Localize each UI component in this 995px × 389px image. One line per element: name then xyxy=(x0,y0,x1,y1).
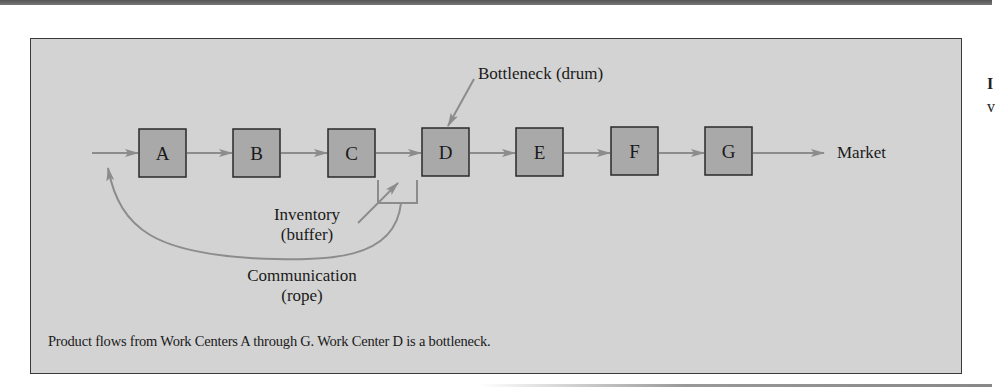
market-label: Market xyxy=(837,143,886,163)
svg-text:D: D xyxy=(439,142,453,163)
inventory-label-line2: (buffer) xyxy=(262,225,352,245)
svg-text:B: B xyxy=(250,143,263,164)
svg-text:G: G xyxy=(722,141,736,162)
work-center-G: G xyxy=(705,127,752,175)
work-center-D-bottleneck: D xyxy=(422,128,469,176)
work-center-B: B xyxy=(233,129,280,177)
rope-feedback-arrow xyxy=(108,168,401,259)
svg-text:A: A xyxy=(156,143,170,164)
inventory-label-line1: Inventory xyxy=(262,205,352,225)
bottom-rule xyxy=(480,384,992,387)
bottleneck-pointer-arrow xyxy=(448,79,474,126)
svg-text:E: E xyxy=(534,142,546,163)
svg-text:C: C xyxy=(345,143,358,164)
communication-label-line2: (rope) xyxy=(232,286,372,306)
cropped-text-fragment-1: I xyxy=(987,75,993,93)
communication-label: Communication (rope) xyxy=(232,266,372,306)
work-center-C: C xyxy=(328,129,375,177)
communication-label-line1: Communication xyxy=(232,266,372,286)
inventory-label: Inventory (buffer) xyxy=(262,205,352,245)
bottleneck-label: Bottleneck (drum) xyxy=(478,64,603,84)
work-center-F: F xyxy=(611,127,658,175)
work-center-A: A xyxy=(139,129,186,177)
svg-text:F: F xyxy=(629,141,640,162)
figure-caption: Product flows from Work Centers A throug… xyxy=(48,333,490,350)
work-center-E: E xyxy=(516,128,563,176)
cropped-text-fragment-2: v xyxy=(987,98,995,116)
